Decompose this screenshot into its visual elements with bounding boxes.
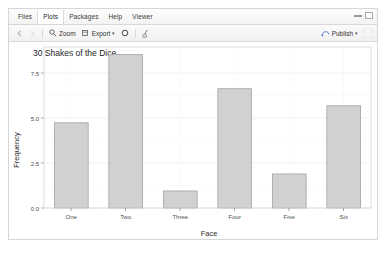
magnifier-icon [49, 29, 57, 37]
y-tick-label: 0.0 [31, 206, 40, 212]
right-arrow-icon [29, 30, 36, 37]
bar-six [327, 106, 361, 208]
x-tick-label: Six [340, 214, 348, 220]
y-axis-tick-labels: 7.5 5.0 2.5 0.0 [31, 71, 40, 212]
export-label: Export [92, 30, 111, 37]
bar-five [272, 174, 306, 208]
clear-all-plots-button[interactable] [139, 27, 153, 40]
x-axis-tick-labels: OneTwoThreeFourFiveSix [66, 214, 348, 220]
y-tick-label: 5.0 [31, 116, 40, 122]
tab-viewer[interactable]: Viewer [127, 10, 157, 24]
export-button[interactable]: Export ▾ [79, 27, 119, 40]
remove-plot-icon [121, 29, 129, 37]
x-tick-label: Two [120, 214, 132, 220]
chart-title: 30 Shakes of the Dice [33, 48, 116, 58]
plot-canvas: 30 Shakes of the Dice Frequency Face 7.5… [9, 42, 377, 239]
bar-one [54, 123, 88, 208]
bar-two [109, 55, 143, 208]
tab-help[interactable]: Help [104, 10, 128, 24]
x-tick-label: Four [229, 214, 241, 220]
refresh-plot-button[interactable] [363, 28, 373, 38]
chart-gridlines [44, 47, 371, 208]
pane-window-controls [354, 12, 373, 19]
tab-packages[interactable]: Packages [64, 10, 103, 24]
remove-plot-button[interactable] [118, 27, 132, 40]
minimize-pane-icon[interactable] [354, 13, 362, 17]
publish-label: Publish [332, 30, 353, 37]
left-arrow-icon [16, 30, 23, 37]
plots-pane: Files Plots Packages Help Viewer [8, 8, 378, 240]
publish-button[interactable]: Publish ▾ [318, 27, 361, 40]
toolbar-separator-1 [42, 29, 43, 38]
export-icon [82, 29, 90, 37]
zoom-button[interactable]: Zoom [46, 27, 79, 40]
bar-three [163, 191, 197, 208]
broom-icon [142, 29, 150, 38]
maximize-pane-icon[interactable] [365, 12, 373, 19]
panel-border [44, 47, 371, 208]
chevron-down-icon: ▾ [112, 31, 115, 36]
x-tick-label: One [66, 214, 78, 220]
plots-toolbar: Zoom Export ▾ [9, 25, 377, 42]
back-button[interactable] [13, 27, 26, 40]
bar-four [218, 89, 252, 208]
publish-chevron-down-icon: ▾ [355, 31, 358, 36]
y-tick-label: 2.5 [31, 161, 40, 167]
x-axis-title: Face [201, 229, 218, 238]
x-axis-tick-marks [71, 208, 344, 211]
publish-icon [321, 29, 330, 37]
pane-tab-bar: Files Plots Packages Help Viewer [9, 9, 377, 25]
forward-button[interactable] [26, 27, 39, 40]
x-tick-label: Three [172, 214, 188, 220]
bar-chart: 30 Shakes of the Dice Frequency Face 7.5… [9, 42, 377, 239]
zoom-label: Zoom [59, 30, 76, 37]
chart-bars [54, 55, 360, 208]
y-tick-label: 7.5 [31, 71, 40, 77]
toolbar-separator-2 [135, 29, 136, 38]
toolbar-right-group: Publish ▾ [318, 27, 373, 40]
x-tick-label: Five [284, 214, 296, 220]
tab-files[interactable]: Files [13, 10, 37, 24]
y-axis-tick-marks [41, 73, 44, 208]
y-axis-title: Frequency [12, 132, 21, 168]
tab-plots[interactable]: Plots [37, 10, 64, 24]
